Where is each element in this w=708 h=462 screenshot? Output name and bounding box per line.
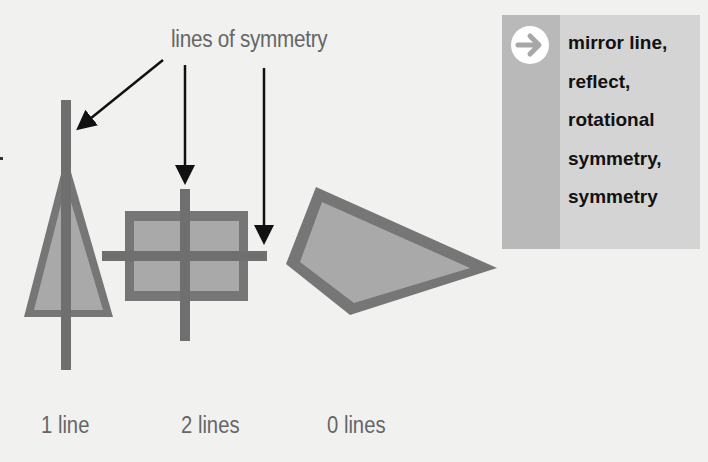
- keywords-list: mirror line, reflect, rotational symmetr…: [568, 24, 667, 217]
- rectangle-shape: [102, 189, 267, 341]
- triangle-shape: [24, 100, 113, 370]
- keyword-item: mirror line,: [568, 24, 667, 63]
- quadrilateral-shape: [286, 187, 497, 315]
- keyword-item: rotational: [568, 101, 667, 140]
- diagram-title: lines of symmetry: [171, 26, 327, 53]
- keyword-item: reflect,: [568, 63, 667, 102]
- edge-mark: [0, 157, 3, 160]
- arrow-right-circle-icon: [510, 25, 550, 65]
- rectangle-horizontal-symmetry-line: [102, 251, 267, 261]
- arrow-to-triangle-line: [80, 60, 163, 127]
- keyword-item: symmetry,: [568, 140, 667, 179]
- rectangle-vertical-symmetry-line: [180, 189, 190, 341]
- caption-rectangle: 2 lines: [181, 412, 240, 439]
- caption-quadrilateral: 0 lines: [327, 412, 386, 439]
- caption-triangle: 1 line: [41, 412, 89, 439]
- keyword-item: symmetry: [568, 178, 667, 217]
- keywords-box: mirror line, reflect, rotational symmetr…: [502, 15, 700, 249]
- triangle-symmetry-line: [61, 100, 71, 192]
